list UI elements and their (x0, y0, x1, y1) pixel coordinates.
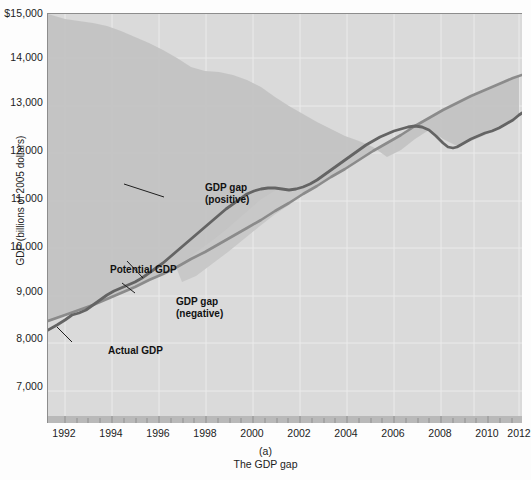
y-tick-15000: $15,000 (0, 7, 43, 19)
annotation-actual-gdp-label: Actual GDP (108, 345, 163, 356)
annotation-gap-positive-line2: (positive) (205, 194, 249, 205)
x-tick-1992: 1992 (52, 427, 75, 439)
y-tick-14000: 14,000 (0, 51, 43, 63)
x-tick-2004: 2004 (334, 427, 357, 439)
annotation-gap-positive-line1: GDP gap (205, 182, 247, 193)
x-tick-1998: 1998 (193, 427, 216, 439)
annotation-gap-negative-line2: (negative) (176, 308, 223, 319)
gdp-gap-figure: $15,000 14,000 13,000 12,000 11,000 10,0… (0, 0, 531, 480)
x-axis-tick-labels: 1992 1994 1996 1998 2000 2002 2004 2006 … (0, 427, 531, 443)
x-tick-2010: 2010 (475, 427, 498, 439)
gdp-gap-plot (48, 14, 522, 423)
annotation-gap-negative-line1: GDP gap (176, 296, 218, 307)
x-tick-2012: 2012 (507, 427, 530, 439)
x-tick-1996: 1996 (146, 427, 169, 439)
annotation-gap-negative: GDP gap (negative) (176, 296, 223, 320)
x-tick-2006: 2006 (381, 427, 404, 439)
x-tick-2000: 2000 (240, 427, 263, 439)
y-axis-title: GDP (billions of 2005 dollars) (15, 86, 26, 316)
annotation-actual-gdp: Actual GDP (108, 345, 163, 357)
annotation-potential-gdp: Potential GDP (110, 264, 177, 276)
y-tick-8000: 8,000 (0, 332, 43, 344)
x-tick-2002: 2002 (287, 427, 310, 439)
annotation-potential-gdp-label: Potential GDP (110, 264, 177, 275)
axis-strip (48, 416, 522, 423)
figure-caption: (a) The GDP gap (0, 445, 531, 471)
caption-panel-label: (a) (0, 445, 531, 458)
x-tick-2008: 2008 (428, 427, 451, 439)
caption-title: The GDP gap (0, 458, 531, 471)
y-tick-7000: 7,000 (0, 380, 43, 392)
plot-area: GDP gap (positive) Potential GDP GDP gap… (47, 13, 522, 423)
x-tick-1994: 1994 (99, 427, 122, 439)
annotation-gap-positive: GDP gap (positive) (205, 182, 249, 206)
